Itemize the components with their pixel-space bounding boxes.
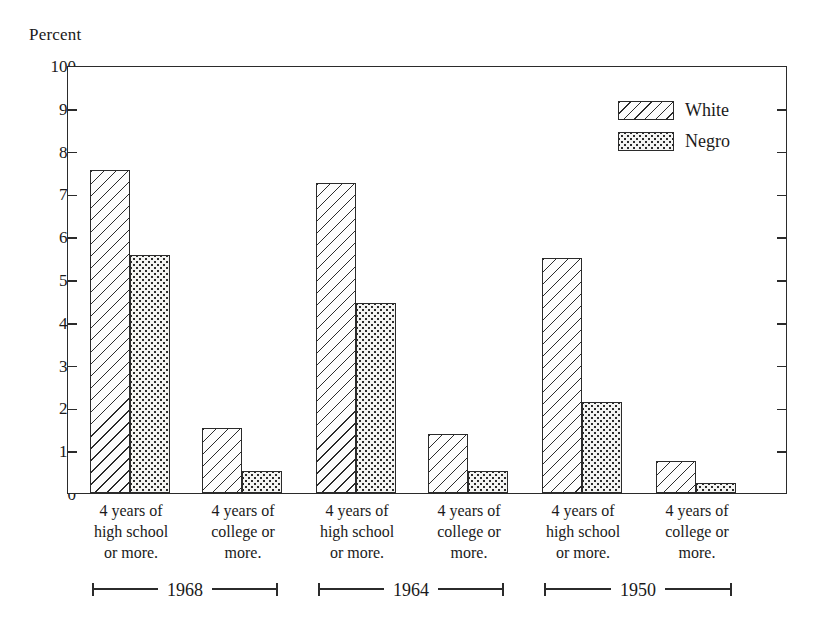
category-label-line: high school xyxy=(72,521,190,542)
legend-item: Negro xyxy=(618,128,730,154)
bar-negro-3 xyxy=(468,471,508,493)
axis-tick xyxy=(68,280,77,282)
axis-tick xyxy=(777,152,786,154)
bar-chart: Percent 1009080706050403020100 WhiteNegr… xyxy=(0,0,818,632)
bar-negro-2 xyxy=(356,303,396,493)
axis-tick xyxy=(68,109,77,111)
axis-tick xyxy=(68,195,77,197)
axis-tick xyxy=(68,409,77,411)
axis-tick xyxy=(68,366,77,368)
legend-item: White xyxy=(618,97,730,123)
category-label-line: or more. xyxy=(298,542,416,563)
axis-tick xyxy=(777,451,786,453)
bracket-line xyxy=(212,588,276,590)
category-label-line: 4 years of xyxy=(184,500,302,521)
category-label-line: 4 years of xyxy=(72,500,190,521)
axis-tick xyxy=(68,451,77,453)
category-label: 4 years ofhigh schoolor more. xyxy=(298,500,416,563)
year-label: 1968 xyxy=(158,581,212,599)
bracket-end xyxy=(730,583,732,596)
category-label: 4 years ofhigh schoolor more. xyxy=(524,500,642,563)
category-label-line: more. xyxy=(184,542,302,563)
category-label-line: college or xyxy=(410,521,528,542)
axis-tick xyxy=(777,109,786,111)
bar-negro-0 xyxy=(130,255,170,493)
category-label-line: 4 years of xyxy=(410,500,528,521)
legend-label: Negro xyxy=(685,131,730,152)
category-label: 4 years ofcollege ormore. xyxy=(638,500,756,563)
bracket-line xyxy=(320,588,384,590)
legend-swatch-white xyxy=(618,101,674,120)
legend-label: White xyxy=(685,100,729,121)
category-label: 4 years ofcollege ormore. xyxy=(184,500,302,563)
category-label-line: 4 years of xyxy=(638,500,756,521)
y-axis-title: Percent xyxy=(29,25,81,45)
bar-negro-5 xyxy=(696,483,736,493)
bracket-line xyxy=(438,588,502,590)
year-bracket: 1964 xyxy=(318,578,504,600)
axis-tick xyxy=(68,323,77,325)
category-label: 4 years ofhigh schoolor more. xyxy=(72,500,190,563)
axis-tick xyxy=(777,237,786,239)
axis-tick xyxy=(777,280,786,282)
bar-negro-1 xyxy=(242,471,282,493)
category-label-line: more. xyxy=(410,542,528,563)
axis-tick xyxy=(777,323,786,325)
bar-white-0 xyxy=(90,170,130,493)
bracket-line xyxy=(94,588,158,590)
category-label-line: 4 years of xyxy=(524,500,642,521)
category-label: 4 years ofcollege ormore. xyxy=(410,500,528,563)
year-bracket: 1950 xyxy=(544,578,732,600)
category-label-line: or more. xyxy=(72,542,190,563)
bar-negro-4 xyxy=(582,402,622,493)
axis-tick xyxy=(777,195,786,197)
bar-white-1 xyxy=(202,428,242,493)
category-label-line: more. xyxy=(638,542,756,563)
category-label-line: or more. xyxy=(524,542,642,563)
bracket-end xyxy=(502,583,504,596)
category-label-line: high school xyxy=(298,521,416,542)
bracket-line xyxy=(546,588,611,590)
bracket-line xyxy=(665,588,730,590)
bar-white-3 xyxy=(428,434,468,493)
axis-tick xyxy=(777,409,786,411)
bracket-end xyxy=(276,583,278,596)
axis-tick xyxy=(68,237,77,239)
category-label-line: 4 years of xyxy=(298,500,416,521)
legend: WhiteNegro xyxy=(618,97,730,159)
bar-white-2 xyxy=(316,183,356,493)
year-label: 1950 xyxy=(611,581,665,599)
bar-white-4 xyxy=(542,258,582,493)
axis-tick xyxy=(68,152,77,154)
year-label: 1964 xyxy=(384,581,438,599)
year-bracket: 1968 xyxy=(92,578,278,600)
axis-tick xyxy=(777,366,786,368)
bar-white-5 xyxy=(656,461,696,493)
legend-swatch-negro xyxy=(618,132,674,151)
category-label-line: college or xyxy=(638,521,756,542)
category-label-line: high school xyxy=(524,521,642,542)
category-label-line: college or xyxy=(184,521,302,542)
